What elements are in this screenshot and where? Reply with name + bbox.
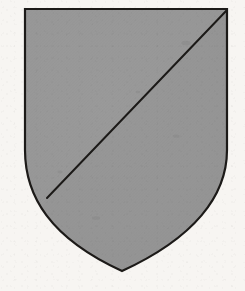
figure-canvas xyxy=(0,0,245,291)
heraldic-shield-illustration xyxy=(0,0,245,291)
